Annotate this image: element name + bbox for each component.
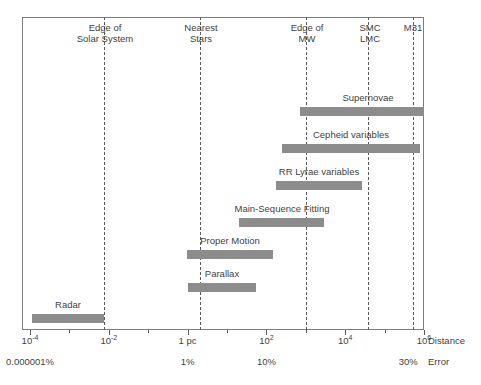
bar-label-2: RR Lyrae variables <box>279 166 359 177</box>
distance-tick-label-0: 10-4 <box>22 335 39 346</box>
error-tick-label-0: 0.000001% <box>6 356 54 367</box>
bar-label-0: Supernovae <box>342 92 393 103</box>
distance-tick-label-1: 10-2 <box>100 335 117 346</box>
bar-label-3: Main-Sequence Fitting <box>234 203 329 214</box>
tick-minor--1 <box>148 330 149 333</box>
bar-label-4: Proper Motion <box>200 235 260 246</box>
bar-label-6: Radar <box>55 299 81 310</box>
landmark-label-4: M31 <box>404 22 422 33</box>
tick-minor-1 <box>227 330 228 333</box>
bar-4 <box>187 250 273 259</box>
bar-5 <box>188 283 256 292</box>
distance-tick-label-3: 102 <box>259 335 273 346</box>
landmark-line-0 <box>104 17 105 330</box>
landmark-line-3 <box>368 17 369 330</box>
bar-0 <box>300 107 424 116</box>
bar-2 <box>276 181 362 190</box>
error-tick-label-3: 30% <box>399 356 418 367</box>
distance-tick-label-2: 1 pc <box>179 335 197 346</box>
tick-minor-3 <box>306 330 307 333</box>
landmark-label-0: Edge of Solar System <box>77 22 134 44</box>
distance-tick-label-4: 104 <box>338 335 352 346</box>
tick-minor-5 <box>385 330 386 333</box>
bar-3 <box>239 218 324 227</box>
bar-label-5: Parallax <box>205 268 239 279</box>
bar-label-1: Cepheid variables <box>313 129 389 140</box>
distance-ladder-figure: Edge of Solar SystemNearest StarsEdge of… <box>0 0 481 385</box>
error-tick-label-2: 10% <box>257 356 276 367</box>
landmark-label-2: Edge of MW <box>291 22 324 44</box>
landmark-label-1: Nearest Stars <box>184 22 217 44</box>
landmark-line-4 <box>413 17 414 330</box>
error-tick-label-1: 1% <box>181 356 195 367</box>
tick-minor--3 <box>69 330 70 333</box>
bar-1 <box>282 144 420 153</box>
error-axis-caption: Error <box>428 356 449 367</box>
landmark-label-3: SMC LMC <box>359 22 380 44</box>
distance-axis-caption: Distance <box>428 335 465 346</box>
bar-6 <box>32 314 105 323</box>
